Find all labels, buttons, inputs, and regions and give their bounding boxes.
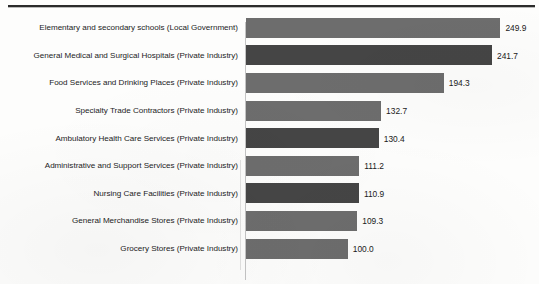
value-label: 132.7: [386, 107, 407, 115]
chart-row: Ambulatory Health Care Services (Private…: [0, 124, 539, 152]
bar[interactable]: [246, 239, 348, 259]
value-label: 110.9: [364, 190, 384, 198]
chart-row: Grocery Stores (Private Industry)100.0: [0, 235, 539, 263]
value-label: 194.3: [449, 79, 470, 87]
bar[interactable]: [246, 45, 492, 65]
horizontal-bar-chart: Elementary and secondary schools (Local …: [0, 10, 539, 276]
value-label: 100.0: [353, 245, 374, 253]
category-label: Elementary and secondary schools (Local …: [4, 24, 238, 32]
document-horizontal-rule: [8, 5, 535, 7]
category-label: Food Services and Drinking Places (Priva…: [4, 79, 238, 87]
plot-left-edge: [245, 22, 246, 280]
plot-left-edge-secondary: [240, 160, 241, 270]
category-label: General Merchandise Stores (Private Indu…: [4, 217, 238, 225]
category-label: Nursing Care Facilities (Private Industr…: [4, 190, 238, 198]
category-label: Specialty Trade Contractors (Private Ind…: [4, 107, 238, 115]
chart-row: Administrative and Support Services (Pri…: [0, 152, 539, 180]
chart-row: Nursing Care Facilities (Private Industr…: [0, 180, 539, 208]
value-label: 249.9: [505, 24, 526, 32]
category-label: General Medical and Surgical Hospitals (…: [4, 52, 238, 60]
bar[interactable]: [246, 183, 359, 203]
chart-row: Food Services and Drinking Places (Priva…: [0, 69, 539, 97]
bar[interactable]: [246, 128, 379, 148]
chart-row: General Merchandise Stores (Private Indu…: [0, 207, 539, 235]
category-label: Ambulatory Health Care Services (Private…: [4, 135, 238, 143]
value-label: 111.2: [364, 162, 384, 170]
value-label: 109.3: [362, 217, 383, 225]
category-label: Administrative and Support Services (Pri…: [4, 162, 238, 170]
bar[interactable]: [246, 18, 500, 38]
category-label: Grocery Stores (Private Industry): [4, 245, 238, 253]
bar[interactable]: [246, 73, 444, 93]
value-label: 241.7: [497, 52, 518, 60]
bar[interactable]: [246, 156, 359, 176]
value-label: 130.4: [384, 135, 405, 143]
bar[interactable]: [246, 211, 357, 231]
chart-row: Elementary and secondary schools (Local …: [0, 14, 539, 42]
chart-row: General Medical and Surgical Hospitals (…: [0, 42, 539, 70]
chart-row: Specialty Trade Contractors (Private Ind…: [0, 97, 539, 125]
bar[interactable]: [246, 101, 381, 121]
